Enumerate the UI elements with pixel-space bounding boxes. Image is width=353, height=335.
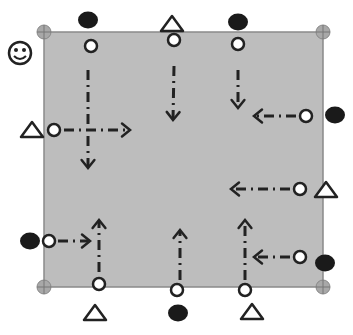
- ball-icon: [315, 255, 335, 272]
- ball-icon: [20, 233, 40, 250]
- corner-marker-icon: [37, 280, 51, 294]
- corner-marker-icon: [316, 25, 330, 39]
- drill-diagram: [0, 0, 353, 335]
- cone-icon: [294, 183, 306, 195]
- triangle-marker-icon: [84, 305, 106, 320]
- cone-icon: [85, 40, 97, 52]
- cone-icon: [168, 34, 180, 46]
- corner-marker-icon: [316, 280, 330, 294]
- ball-icon: [228, 14, 248, 31]
- ball-icon: [168, 305, 188, 322]
- ball-icon: [325, 107, 345, 124]
- triangle-marker-icon: [241, 304, 263, 319]
- cone-icon: [43, 235, 55, 247]
- cone-icon: [48, 124, 60, 136]
- corner-marker-icon: [37, 25, 51, 39]
- triangle-marker-icon: [21, 122, 43, 137]
- triangle-marker-icon: [161, 16, 183, 31]
- cone-icon: [294, 251, 306, 263]
- cone-icon: [239, 284, 251, 296]
- smiley-icon: [9, 42, 31, 64]
- cone-icon: [93, 278, 105, 290]
- cone-icon: [300, 110, 312, 122]
- ball-icon: [78, 12, 98, 29]
- cone-icon: [171, 284, 183, 296]
- cone-icon: [232, 38, 244, 50]
- playing-field: [44, 32, 323, 287]
